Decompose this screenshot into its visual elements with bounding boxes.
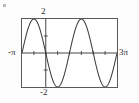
x-axis-max-label: 3π xyxy=(119,48,128,57)
plot-frame xyxy=(21,18,118,88)
corner-artifact-mark xyxy=(3,4,6,7)
x-axis-min-label: -π xyxy=(8,48,16,57)
y-axis-max-label: 2 xyxy=(41,7,46,16)
plot-canvas xyxy=(22,19,117,87)
y-axis-min-label: -2 xyxy=(40,88,48,97)
sine-graph-figure: 2 -2 -π 3π xyxy=(0,0,139,103)
